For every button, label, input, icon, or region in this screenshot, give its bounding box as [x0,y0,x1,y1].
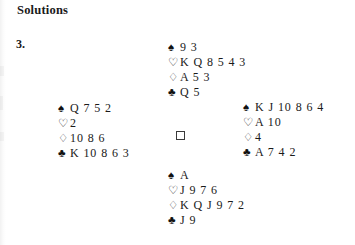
spade-icon: ♠ [58,101,69,116]
west-hand: ♠ Q 7 5 2 ♡ 2 ♢ 10 8 6 ♣ K 10 8 6 3 [58,101,130,161]
club-icon: ♣ [58,146,69,161]
north-spade-line: ♠ 9 3 [168,40,246,55]
west-heart-cards: 2 [69,116,77,131]
west-diamond-cards: 10 8 6 [69,131,105,146]
spade-icon: ♠ [168,40,179,55]
east-club-cards: A 7 4 2 [254,145,296,160]
west-spade-cards: Q 7 5 2 [69,101,112,116]
north-heart-cards: K Q 8 5 4 3 [179,55,246,70]
north-club-cards: Q 5 [179,85,200,100]
south-heart-line: ♡ J 9 7 6 [168,183,245,198]
heart-icon: ♡ [58,116,69,131]
west-diamond-line: ♢ 10 8 6 [58,131,130,146]
west-club-line: ♣ K 10 8 6 3 [58,146,130,161]
south-hand: ♠ A ♡ J 9 7 6 ♢ K Q J 9 7 2 ♣ J 9 [168,168,245,228]
south-spade-cards: A [179,168,190,183]
south-club-line: ♣ J 9 [168,213,245,228]
heart-icon: ♡ [243,115,254,130]
south-club-cards: J 9 [179,213,196,228]
north-diamond-line: ♢ A 5 3 [168,70,246,85]
east-heart-cards: A 10 [254,115,282,130]
east-club-line: ♣ A 7 4 2 [243,145,324,160]
north-diamond-cards: A 5 3 [179,70,211,85]
south-diamond-line: ♢ K Q J 9 7 2 [168,198,245,213]
west-club-cards: K 10 8 6 3 [69,146,130,161]
bridge-deal-diagram: ♠ 9 3 ♡ K Q 8 5 4 3 ♢ A 5 3 ♣ Q 5 ♠ Q 7 … [0,0,355,245]
east-diamond-cards: 4 [254,130,262,145]
club-icon: ♣ [168,85,179,100]
spade-icon: ♠ [168,168,179,183]
spade-icon: ♠ [243,100,254,115]
east-spade-line: ♠ K J 10 8 6 4 [243,100,324,115]
diamond-icon: ♢ [243,130,254,145]
east-diamond-line: ♢ 4 [243,130,324,145]
diamond-icon: ♢ [168,70,179,85]
west-spade-line: ♠ Q 7 5 2 [58,101,130,116]
south-spade-line: ♠ A [168,168,245,183]
diamond-icon: ♢ [58,131,69,146]
south-heart-cards: J 9 7 6 [179,183,218,198]
east-spade-cards: K J 10 8 6 4 [254,100,324,115]
north-hand: ♠ 9 3 ♡ K Q 8 5 4 3 ♢ A 5 3 ♣ Q 5 [168,40,246,100]
north-heart-line: ♡ K Q 8 5 4 3 [168,55,246,70]
club-icon: ♣ [168,213,179,228]
north-spade-cards: 9 3 [179,40,198,55]
heart-icon: ♡ [168,183,179,198]
west-heart-line: ♡ 2 [58,116,130,131]
diamond-icon: ♢ [168,198,179,213]
north-club-line: ♣ Q 5 [168,85,246,100]
south-diamond-cards: K Q J 9 7 2 [179,198,245,213]
east-heart-line: ♡ A 10 [243,115,324,130]
center-compass-marker [176,131,185,140]
club-icon: ♣ [243,145,254,160]
heart-icon: ♡ [168,55,179,70]
east-hand: ♠ K J 10 8 6 4 ♡ A 10 ♢ 4 ♣ A 7 4 2 [243,100,324,160]
